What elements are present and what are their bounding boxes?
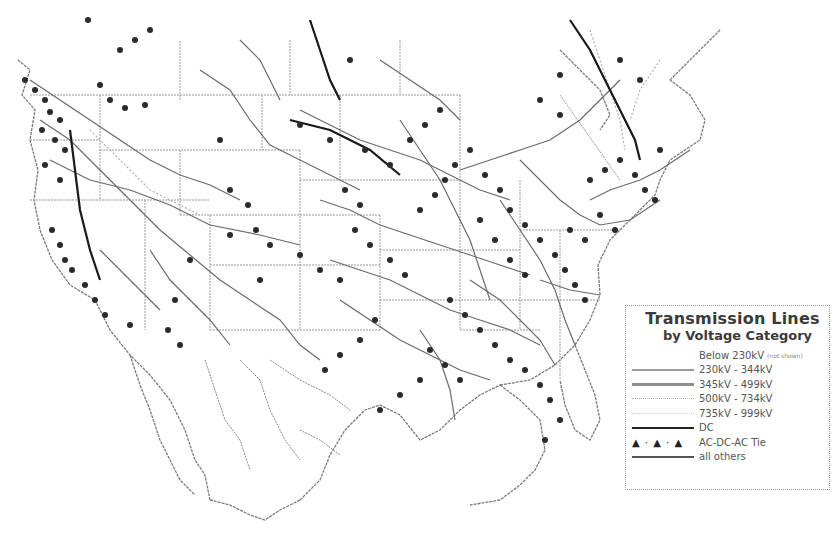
swatch-none bbox=[632, 350, 695, 360]
legend-label: Below 230kV bbox=[699, 350, 764, 361]
legend-subtitle: by Voltage Category bbox=[652, 328, 823, 344]
line-swatch-icon bbox=[632, 423, 695, 433]
legend-label: all others bbox=[699, 451, 746, 462]
legend-label: AC-DC-AC Tie bbox=[699, 437, 766, 448]
mexico-boundaries bbox=[205, 360, 350, 470]
line-swatch-icon bbox=[632, 365, 695, 375]
line-swatch-icon bbox=[632, 452, 695, 462]
legend-label: 735kV - 999kV bbox=[699, 408, 772, 419]
legend-label: 230kV - 344kV bbox=[699, 364, 772, 375]
line-swatch-icon bbox=[632, 379, 695, 389]
legend-item-dc: DC bbox=[632, 421, 823, 436]
legend-item-all-others: all others bbox=[632, 450, 823, 465]
legend-item-ac-dc-ac-tie: ▲ · ▲ · ▲ AC-DC-AC Tie bbox=[632, 435, 823, 450]
triangle-icon: ▲ · ▲ · ▲ bbox=[632, 437, 695, 448]
legend-item-230kv: 230kV - 344kV bbox=[632, 363, 823, 378]
legend-item-500kv: 500kV - 734kV bbox=[632, 392, 823, 407]
line-swatch-icon bbox=[632, 394, 695, 404]
state-boundaries bbox=[30, 40, 620, 380]
legend-item-below-230kv: Below 230kV (not shown) bbox=[632, 348, 823, 363]
legend-item-345kv: 345kV - 499kV bbox=[632, 377, 823, 392]
legend-item-735kv: 735kV - 999kV bbox=[632, 406, 823, 421]
line-swatch-icon bbox=[632, 408, 695, 418]
legend-label: 345kV - 499kV bbox=[699, 379, 772, 390]
legend-label: DC bbox=[699, 422, 714, 433]
transmission-lines-high-voltage bbox=[90, 30, 660, 215]
legend-label: 500kV - 734kV bbox=[699, 393, 772, 404]
legend-title: Transmission Lines bbox=[642, 310, 823, 328]
legend-note: (not shown) bbox=[767, 352, 803, 359]
map-legend: Transmission Lines by Voltage Category B… bbox=[625, 305, 830, 490]
